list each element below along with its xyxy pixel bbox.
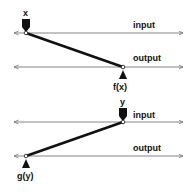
input-marker-label: x <box>23 8 28 18</box>
output-axis-label: output <box>133 53 161 63</box>
input-axis-label: input <box>133 20 155 30</box>
input-point <box>24 31 28 35</box>
output-marker-icon <box>22 159 30 168</box>
output-point <box>24 154 28 158</box>
input-marker-label: y <box>120 97 125 107</box>
mapping-line <box>26 33 123 67</box>
input-axis-label: input <box>133 110 155 120</box>
panel-inverse: input output y g(y) <box>14 97 183 181</box>
output-marker-label: g(y) <box>17 171 34 181</box>
input-point <box>121 120 125 124</box>
output-marker-label: f(x) <box>113 82 127 92</box>
output-axis-label: output <box>133 143 161 153</box>
input-marker-icon <box>119 108 127 120</box>
panel-forward: input output x f(x) <box>14 8 183 92</box>
output-marker-icon <box>119 70 127 79</box>
mapping-line <box>26 122 123 156</box>
mapping-diagram: input output x f(x) input output y g(y) <box>0 0 195 192</box>
input-marker-icon <box>22 19 30 31</box>
output-point <box>121 65 125 69</box>
